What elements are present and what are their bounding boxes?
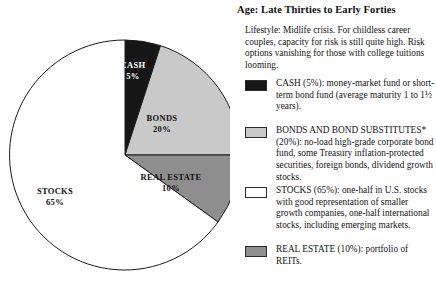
pie-label-cash: CASH 5%	[110, 60, 156, 82]
pie-label-stocks-name: STOCKS	[20, 186, 90, 197]
pie-label-real-estate-percent: 10%	[133, 183, 209, 194]
pie-label-real-estate-name: REAL ESTATE	[133, 172, 209, 183]
legend-text-cash: CASH (5%): money-market fund or short-te…	[276, 78, 436, 113]
legend-text-stocks: STOCKS (65%): one-half in U.S. stocks wi…	[276, 185, 436, 232]
lifestyle-description: Lifestyle: Midlife crisis. For childless…	[245, 25, 435, 72]
pie-label-stocks: STOCKS 65%	[20, 186, 90, 208]
legend-swatch-cash	[245, 80, 267, 91]
pie-label-cash-name: CASH	[110, 60, 156, 71]
pie-label-bonds-name: BONDS	[135, 113, 189, 124]
legend-swatch-real-estate	[245, 246, 267, 257]
pie-label-stocks-percent: 65%	[20, 197, 90, 208]
pie-chart-area: CASH 5% BONDS 20% REAL ESTATE 10% STOCKS…	[0, 18, 230, 298]
pie-label-real-estate: REAL ESTATE 10%	[133, 172, 209, 194]
legend-text-real-estate: REAL ESTATE (10%): portfolio of REITs.	[276, 244, 436, 267]
legend-swatch-bonds	[245, 127, 267, 138]
legend-swatch-stocks	[245, 187, 267, 198]
legend-text-bonds: BONDS AND BOND SUBSTITUTES* (20%): no-lo…	[276, 125, 436, 184]
pie-label-bonds-percent: 20%	[135, 124, 189, 135]
chart-title: Age: Late Thirties to Early Forties	[237, 3, 436, 16]
info-panel: Age: Late Thirties to Early Forties Life…	[226, 0, 436, 301]
pie-label-cash-percent: 5%	[110, 71, 156, 82]
pie-chart-figure: CASH 5% BONDS 20% REAL ESTATE 10% STOCKS…	[0, 0, 436, 301]
pie-label-bonds: BONDS 20%	[135, 113, 189, 135]
